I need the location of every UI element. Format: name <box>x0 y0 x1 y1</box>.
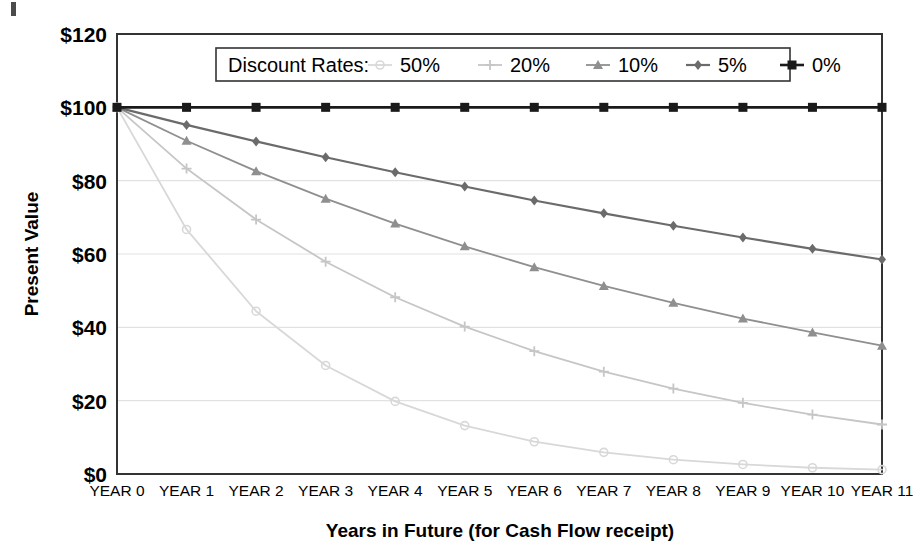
y-axis-tick-labels: $0$20$40$60$80$100$120 <box>60 23 107 486</box>
data-point-square <box>530 103 539 112</box>
data-point-square <box>113 103 122 112</box>
legend-label: 5% <box>718 54 747 76</box>
data-point-square <box>738 103 747 112</box>
data-point-square <box>182 103 191 112</box>
y-tick-label: $60 <box>72 243 107 266</box>
legend-label: 0% <box>812 54 841 76</box>
x-tick-label: YEAR 9 <box>715 482 770 499</box>
data-point-square <box>599 103 608 112</box>
data-point-square <box>252 103 261 112</box>
data-point-square <box>788 61 797 70</box>
y-axis-title: Present Value <box>21 192 42 317</box>
data-point-square <box>808 103 817 112</box>
data-point-square <box>321 103 330 112</box>
data-point-square <box>669 103 678 112</box>
y-tick-label: $80 <box>72 170 107 193</box>
x-tick-label: YEAR 2 <box>229 482 284 499</box>
data-point-square <box>460 103 469 112</box>
x-tick-label: YEAR 6 <box>507 482 562 499</box>
legend-label: 50% <box>400 54 440 76</box>
x-axis-tick-labels: YEAR 0YEAR 1YEAR 2YEAR 3YEAR 4YEAR 5YEAR… <box>89 482 913 499</box>
y-tick-label: $20 <box>72 390 107 413</box>
legend-title: Discount Rates: <box>228 54 369 76</box>
x-tick-label: YEAR 11 <box>851 482 914 499</box>
x-tick-label: YEAR 1 <box>159 482 214 499</box>
x-axis-title: Years in Future (for Cash Flow receipt) <box>326 520 674 541</box>
x-tick-label: YEAR 5 <box>437 482 492 499</box>
y-tick-label: $40 <box>72 316 107 339</box>
legend: Discount Rates: 50%20%10%5%0% <box>216 48 841 81</box>
legend-label: 20% <box>510 54 550 76</box>
x-tick-label: YEAR 8 <box>646 482 701 499</box>
scan-artifact <box>11 2 16 16</box>
x-tick-label: YEAR 10 <box>781 482 845 499</box>
present-value-chart: $0$20$40$60$80$100$120 YEAR 0YEAR 1YEAR … <box>0 0 919 558</box>
x-tick-label: YEAR 7 <box>576 482 631 499</box>
x-tick-label: YEAR 3 <box>298 482 353 499</box>
data-point-square <box>391 103 400 112</box>
x-tick-label: YEAR 4 <box>368 482 424 499</box>
y-tick-label: $120 <box>60 23 107 46</box>
legend-label: 10% <box>618 54 658 76</box>
y-tick-label: $100 <box>60 96 107 119</box>
data-point-square <box>878 103 887 112</box>
chart-canvas: $0$20$40$60$80$100$120 YEAR 0YEAR 1YEAR … <box>0 0 919 558</box>
x-tick-label: YEAR 0 <box>89 482 145 499</box>
